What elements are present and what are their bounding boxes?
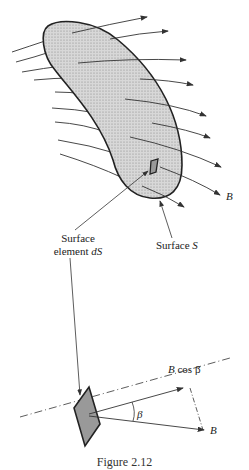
label-projection-var: B <box>168 363 175 375</box>
label-field-b-top: B <box>226 190 233 203</box>
label-element-line2: element dS <box>42 245 114 258</box>
label-element-line1: Surface <box>42 232 114 245</box>
label-projection-suffix: cos β <box>177 363 200 375</box>
angle-arc <box>132 402 134 421</box>
label-surface-element: Surface element dS <box>42 232 114 258</box>
label-beta: β <box>137 408 142 421</box>
label-surface-var: S <box>192 239 198 251</box>
label-element-var: dS <box>91 245 102 257</box>
label-b-cos-beta: B cos β <box>168 363 201 376</box>
label-surface-s: Surface S <box>156 239 198 252</box>
label-field-b-bottom: B <box>210 424 217 437</box>
figure-caption: Figure 2.12 <box>0 455 249 470</box>
label-element-prefix: element <box>54 245 89 257</box>
surface-s <box>43 22 182 199</box>
label-surface-prefix: Surface <box>156 239 190 251</box>
